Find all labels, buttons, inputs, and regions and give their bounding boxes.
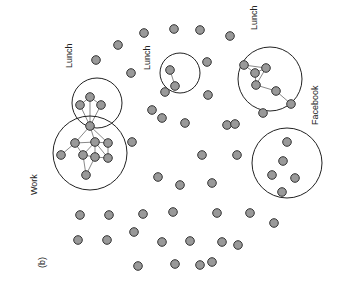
node	[208, 258, 217, 267]
node	[127, 69, 136, 78]
node	[272, 87, 281, 96]
node	[252, 81, 261, 90]
cluster-label-work: Work	[29, 174, 39, 195]
node	[259, 109, 268, 118]
node	[148, 106, 157, 115]
node	[279, 157, 288, 166]
node	[134, 262, 143, 271]
node	[130, 228, 139, 237]
node	[176, 181, 185, 190]
node	[226, 32, 235, 41]
node	[218, 238, 227, 247]
cluster-label-lunch-right: Lunch	[249, 5, 259, 30]
node	[198, 151, 207, 160]
node	[291, 174, 300, 183]
node	[270, 219, 279, 228]
node	[57, 151, 66, 160]
node	[169, 208, 178, 217]
node	[213, 209, 222, 218]
node	[158, 114, 167, 123]
cluster-label-lunch-left: Lunch	[64, 43, 74, 68]
node	[171, 260, 180, 269]
node	[287, 100, 296, 109]
cluster-ring-lunch-mid	[160, 53, 200, 93]
node	[76, 211, 85, 220]
node	[74, 236, 83, 245]
node	[139, 210, 148, 219]
node	[251, 69, 260, 78]
cluster-label-facebook: Facebook	[310, 85, 320, 125]
node	[240, 61, 249, 70]
node	[154, 173, 163, 182]
node	[76, 101, 85, 110]
node	[103, 236, 112, 245]
network-diagram: LunchWorkLunchLunchFacebook (b)	[0, 0, 341, 297]
node	[196, 261, 205, 270]
node	[92, 56, 101, 65]
node	[140, 29, 149, 38]
node	[196, 26, 205, 35]
cluster-label-lunch-mid: Lunch	[142, 45, 152, 70]
node	[246, 209, 255, 218]
node	[104, 154, 113, 163]
node	[161, 88, 170, 97]
node	[204, 91, 213, 100]
node	[104, 139, 113, 148]
node	[283, 138, 292, 147]
node	[97, 101, 106, 110]
node	[208, 179, 217, 188]
nodes	[57, 25, 300, 271]
node	[79, 151, 88, 160]
node	[233, 151, 242, 160]
node	[158, 238, 167, 247]
node	[105, 211, 114, 220]
node	[71, 139, 80, 148]
node	[86, 122, 95, 131]
node	[268, 171, 277, 180]
panel-label: (b)	[37, 257, 47, 268]
node	[170, 25, 179, 34]
node	[203, 58, 212, 67]
node	[231, 120, 240, 129]
node	[128, 138, 137, 147]
node	[82, 171, 91, 180]
node	[91, 153, 100, 162]
node	[186, 237, 195, 246]
node	[86, 93, 95, 102]
node	[171, 82, 180, 91]
node	[262, 64, 271, 73]
node	[278, 188, 287, 197]
node	[181, 119, 190, 128]
node	[166, 66, 175, 75]
node	[223, 121, 232, 130]
node	[114, 41, 123, 50]
node	[91, 138, 100, 147]
node	[234, 241, 243, 250]
